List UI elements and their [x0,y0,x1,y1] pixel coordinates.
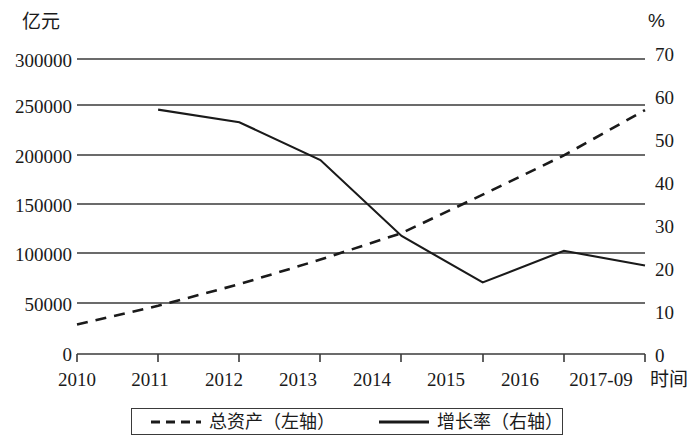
gridlines [77,59,645,303]
legend-label-total-assets: 总资产（左轴） [209,413,335,431]
chart-legend: 总资产（左轴） 增长率（右轴） [131,408,563,435]
x-axis-line [77,354,645,362]
chart-figure: 亿元 % 300000 250000 200000 150000 100000 … [0,0,694,437]
series-line-total-assets [77,110,645,324]
legend-item-growth-rate: 增长率（右轴） [378,409,563,434]
legend-item-total-assets: 总资产（左轴） [150,409,335,434]
plot-area [0,0,694,437]
legend-label-growth-rate: 增长率（右轴） [437,413,563,431]
series-line-growth-rate [158,110,645,283]
solid-line-icon [378,415,430,429]
dashed-line-icon [150,415,202,429]
